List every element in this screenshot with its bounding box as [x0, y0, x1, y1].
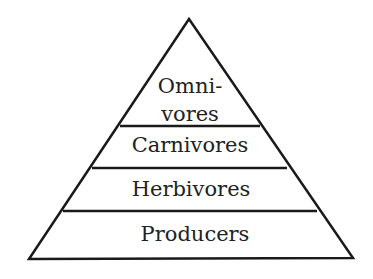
level-omnivores-label-line2: vores	[161, 104, 219, 125]
level-carnivores-label: Carnivores	[132, 135, 249, 156]
level-omnivores-label-line1: Omni-	[158, 76, 222, 97]
level-herbivores-label: Herbivores	[132, 179, 251, 200]
level-producers-label: Producers	[141, 224, 250, 245]
